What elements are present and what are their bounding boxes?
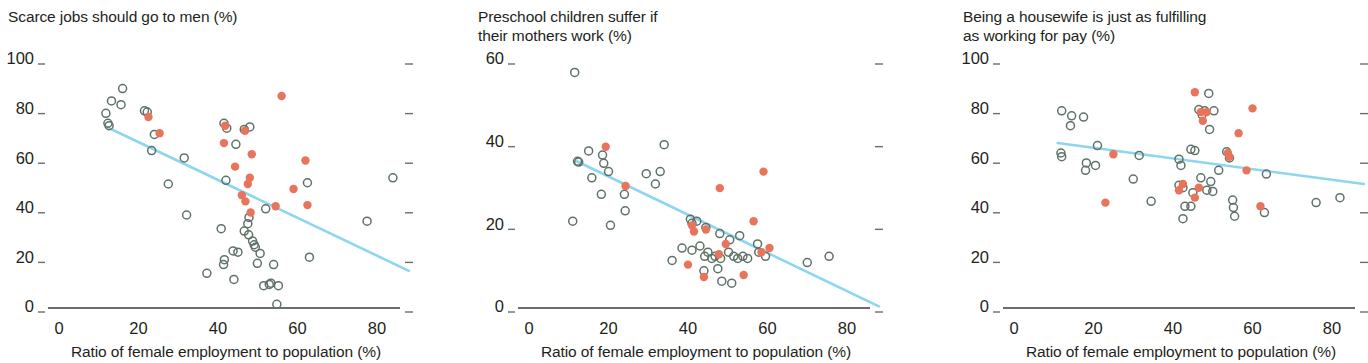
- data-point: [588, 174, 596, 182]
- y-axis-tick-label: 100: [961, 49, 989, 67]
- panel-title-line: Being a housewife is just as fulfilling: [963, 8, 1206, 25]
- y-axis-tick-label: 40: [971, 198, 989, 216]
- data-point: [600, 159, 608, 167]
- y-axis-tick-label: 80: [16, 99, 34, 117]
- y-axis-tick-label: 0: [980, 297, 989, 315]
- y-axis-tick-label: 40: [16, 198, 34, 216]
- data-point: [1191, 88, 1199, 96]
- x-axis-tick-label: 60: [758, 319, 776, 337]
- data-point: [642, 170, 650, 178]
- data-point: [234, 248, 242, 256]
- data-point: [289, 185, 297, 193]
- data-point: [700, 273, 708, 281]
- data-point: [1179, 215, 1187, 223]
- data-point: [363, 217, 371, 225]
- x-axis-title: Ratio of female employment to population…: [541, 343, 851, 360]
- data-point: [606, 221, 614, 229]
- scatter-plot-1: Preschool children suffer iftheir mother…: [456, 0, 912, 363]
- data-point: [1058, 107, 1066, 115]
- x-axis-tick-label: 40: [209, 319, 227, 337]
- x-axis-tick-label: 40: [1164, 319, 1182, 337]
- data-point: [262, 205, 270, 213]
- data-point: [389, 174, 397, 182]
- data-point: [825, 252, 833, 260]
- data-point: [119, 85, 127, 93]
- data-point: [605, 168, 613, 176]
- x-axis-tick-label: 0: [524, 319, 533, 337]
- data-point: [739, 252, 747, 260]
- data-point: [1187, 202, 1195, 210]
- scatter-plot-0: Scarce jobs should go to men (%)02040608…: [0, 0, 456, 363]
- data-point: [1091, 161, 1099, 169]
- data-point: [656, 168, 664, 176]
- y-axis-tick-label: 20: [971, 248, 989, 266]
- data-point: [1210, 107, 1218, 115]
- data-point: [256, 249, 264, 257]
- data-point: [718, 277, 726, 285]
- data-point: [220, 261, 228, 269]
- data-point: [217, 225, 225, 233]
- data-point: [684, 260, 692, 268]
- data-point: [725, 248, 733, 256]
- data-point: [220, 139, 228, 147]
- data-point: [244, 180, 252, 188]
- data-point: [155, 129, 163, 137]
- data-point: [585, 147, 593, 155]
- data-point: [599, 151, 607, 159]
- y-axis-tick-label: 40: [486, 132, 504, 150]
- y-axis-tick-label: 20: [486, 215, 504, 233]
- data-point: [248, 150, 256, 158]
- data-point: [1109, 150, 1117, 158]
- data-point: [1197, 174, 1205, 182]
- data-point: [1129, 175, 1137, 183]
- data-point: [739, 271, 747, 279]
- x-axis-tick-label: 80: [838, 319, 856, 337]
- data-point: [303, 179, 311, 187]
- data-point: [1205, 89, 1213, 97]
- data-point: [246, 208, 254, 216]
- data-point: [270, 261, 278, 269]
- data-point: [1068, 112, 1076, 120]
- chart-panel-1: Preschool children suffer iftheir mother…: [456, 0, 912, 363]
- x-axis-tick-label: 20: [129, 319, 147, 337]
- data-point: [301, 156, 309, 164]
- data-point: [253, 259, 261, 267]
- data-point: [117, 101, 125, 109]
- data-point: [1242, 166, 1250, 174]
- y-axis-tick-label: 100: [6, 49, 34, 67]
- data-point: [722, 240, 730, 248]
- data-point: [1248, 104, 1256, 112]
- data-point: [102, 109, 110, 117]
- trend-line: [107, 127, 409, 271]
- chart-panel-2: Being a housewife is just as fulfillinga…: [912, 0, 1368, 363]
- data-point: [749, 217, 757, 225]
- x-axis-tick-label: 0: [1009, 319, 1018, 337]
- x-axis-tick-label: 80: [1323, 319, 1341, 337]
- chart-panel-0: Scarce jobs should go to men (%)02040608…: [0, 0, 456, 363]
- data-point: [1312, 199, 1320, 207]
- data-point: [231, 162, 239, 170]
- panel-title-line: Preschool children suffer if: [478, 8, 658, 25]
- data-point: [1080, 113, 1088, 121]
- data-point: [728, 279, 736, 287]
- data-point: [1225, 153, 1233, 161]
- data-point: [651, 180, 659, 188]
- data-point: [241, 126, 249, 134]
- y-axis-tick-label: 60: [16, 149, 34, 167]
- data-point: [571, 68, 579, 76]
- data-point: [241, 197, 249, 205]
- y-axis-tick-label: 0: [495, 297, 504, 315]
- x-axis-tick-label: 60: [288, 319, 306, 337]
- y-axis-tick-label: 0: [25, 297, 34, 315]
- y-axis-tick-label: 60: [486, 49, 504, 67]
- data-point: [1256, 202, 1264, 210]
- data-point: [107, 97, 115, 105]
- data-point: [1175, 186, 1183, 194]
- data-point: [1203, 108, 1211, 116]
- x-axis-tick-label: 60: [1243, 319, 1261, 337]
- x-axis-title: Ratio of female employment to population…: [1026, 343, 1336, 360]
- data-point: [232, 140, 240, 148]
- data-point: [620, 190, 628, 198]
- data-point: [305, 253, 313, 261]
- data-point: [702, 225, 710, 233]
